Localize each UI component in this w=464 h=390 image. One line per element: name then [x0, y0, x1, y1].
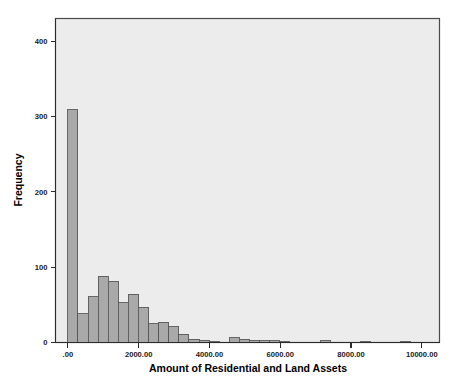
- x-tick-label: 8000.00: [337, 350, 364, 359]
- y-tick-label: 0: [43, 338, 47, 347]
- histogram-bar: [128, 294, 138, 342]
- histogram-svg: 0100200300400 .002000.004000.006000.0080…: [0, 0, 464, 390]
- histogram-bar: [78, 314, 88, 343]
- x-tick-label: 4000.00: [196, 350, 223, 359]
- histogram-bar: [138, 307, 148, 342]
- histogram-bar: [88, 297, 98, 343]
- x-tick-label: .00: [63, 350, 74, 359]
- y-tick-label: 400: [35, 37, 48, 46]
- histogram-bar: [108, 281, 118, 342]
- histogram-bar: [169, 327, 179, 343]
- histogram-bar: [68, 110, 78, 343]
- x-tick-label: 10000.00: [406, 350, 438, 359]
- histogram-bar: [98, 276, 108, 342]
- histogram-bar: [149, 324, 159, 343]
- y-tick-label: 300: [35, 112, 48, 121]
- chart-container: 0100200300400 .002000.004000.006000.0080…: [0, 0, 464, 390]
- y-axis-ticks: 0100200300400: [35, 37, 56, 347]
- histogram-bar: [229, 338, 239, 343]
- histogram-bar: [159, 322, 169, 342]
- x-tick-label: 6000.00: [267, 350, 294, 359]
- histogram-bar: [118, 303, 128, 343]
- x-tick-label: 2000.00: [125, 350, 152, 359]
- x-axis-title: Amount of Residential and Land Assets: [149, 362, 347, 374]
- histogram-bar: [179, 334, 189, 342]
- x-axis-ticks: .002000.004000.006000.008000.0010000.00: [63, 343, 438, 359]
- y-tick-label: 200: [35, 188, 48, 197]
- y-tick-label: 100: [35, 263, 48, 272]
- y-axis-title: Frequency: [12, 153, 24, 206]
